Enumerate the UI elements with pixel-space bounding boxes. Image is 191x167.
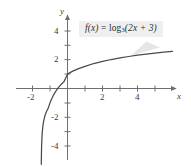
x-axis-label: x	[177, 92, 181, 101]
y-axis-label: y	[60, 7, 64, 16]
y-tick-label--4: -4	[51, 142, 59, 151]
chart-figure: -2 2 4 4 2 -2 -4 y x f(x) = log3(2x + 3)	[0, 0, 191, 167]
function-equals: =	[99, 23, 109, 33]
x-tick-label-2: 2	[100, 93, 105, 102]
x-tick-label-4: 4	[135, 93, 140, 102]
function-argument: (x)	[88, 23, 99, 33]
function-body: (2x + 3)	[125, 23, 157, 33]
y-tick-label-2: 2	[54, 55, 59, 64]
function-curve	[41, 51, 172, 164]
function-log-word: log	[109, 23, 121, 33]
y-tick-label--2: -2	[51, 113, 59, 122]
x-tick-label--2: -2	[27, 93, 35, 102]
y-tick-label-4: 4	[54, 27, 59, 36]
function-annotation-label: f(x) = log3(2x + 3)	[79, 21, 163, 37]
